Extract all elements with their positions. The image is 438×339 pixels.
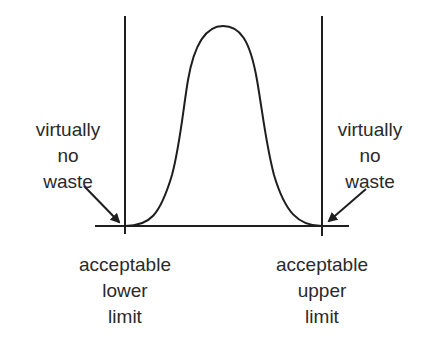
left-waste-label: virtually no waste <box>18 117 118 195</box>
upper-limit-label: acceptable upper limit <box>267 252 377 330</box>
lower-limit-line-3: limit <box>70 304 180 330</box>
upper-limit-line-2: upper <box>267 278 377 304</box>
upper-limit-line-3: limit <box>267 304 377 330</box>
lower-limit-label: acceptable lower limit <box>70 252 180 330</box>
left-waste-line-3: waste <box>18 169 118 195</box>
right-waste-line-1: virtually <box>320 117 420 143</box>
lower-limit-line-2: lower <box>70 278 180 304</box>
right-waste-line-2: no <box>320 143 420 169</box>
left-waste-line-1: virtually <box>18 117 118 143</box>
left-waste-line-2: no <box>18 143 118 169</box>
lower-limit-line-1: acceptable <box>70 252 180 278</box>
upper-limit-line-1: acceptable <box>267 252 377 278</box>
right-waste-label: virtually no waste <box>320 117 420 195</box>
bell-curve <box>125 26 322 226</box>
right-waste-line-3: waste <box>320 169 420 195</box>
